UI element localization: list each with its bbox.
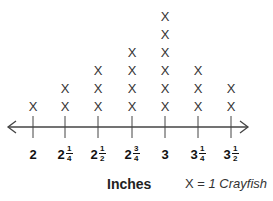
x-mark: X bbox=[158, 8, 172, 26]
x-mark: X bbox=[58, 98, 72, 116]
tick-label: 3 bbox=[150, 144, 180, 162]
tick-label: 234 bbox=[117, 144, 147, 163]
line-plot: XXXXXXXXXXXXXXXXXXXXX 22142122343314312 … bbox=[0, 0, 273, 201]
x-axis-label: Inches bbox=[107, 176, 151, 192]
x-mark: X bbox=[158, 62, 172, 80]
x-mark: X bbox=[91, 98, 105, 116]
legend: X = 1 Crayfish bbox=[185, 176, 267, 191]
tick-label: 314 bbox=[183, 144, 213, 163]
x-mark: X bbox=[191, 62, 205, 80]
tick-label: 2 bbox=[18, 144, 48, 162]
tick-label: 214 bbox=[50, 144, 80, 163]
x-mark: X bbox=[91, 80, 105, 98]
x-mark: X bbox=[125, 80, 139, 98]
x-mark: X bbox=[191, 98, 205, 116]
tick-label: 312 bbox=[216, 144, 246, 163]
x-mark: X bbox=[158, 26, 172, 44]
x-mark: X bbox=[158, 44, 172, 62]
x-mark: X bbox=[125, 62, 139, 80]
x-mark: X bbox=[224, 98, 238, 116]
tick-label: 212 bbox=[83, 144, 113, 163]
x-mark: X bbox=[125, 98, 139, 116]
x-mark: X bbox=[158, 98, 172, 116]
x-mark: X bbox=[58, 80, 72, 98]
x-mark: X bbox=[191, 80, 205, 98]
x-mark: X bbox=[26, 98, 40, 116]
x-mark: X bbox=[91, 62, 105, 80]
x-mark: X bbox=[158, 80, 172, 98]
x-mark: X bbox=[125, 44, 139, 62]
x-mark: X bbox=[224, 80, 238, 98]
